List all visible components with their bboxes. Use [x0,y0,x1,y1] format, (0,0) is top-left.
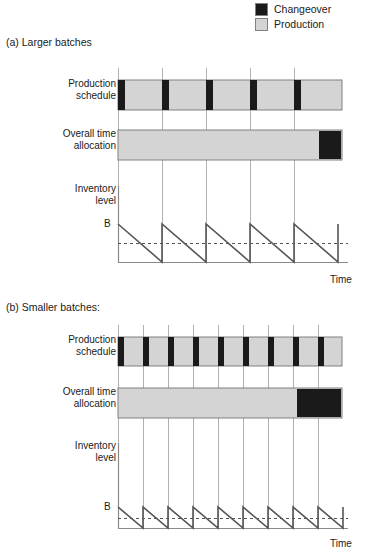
overall-time-allocation-bar-b [118,388,342,418]
production-schedule-bar-b [118,337,342,366]
panel-b-svg [0,0,365,555]
sawtooth-b [118,507,343,528]
panel-b-graphics [0,0,365,555]
